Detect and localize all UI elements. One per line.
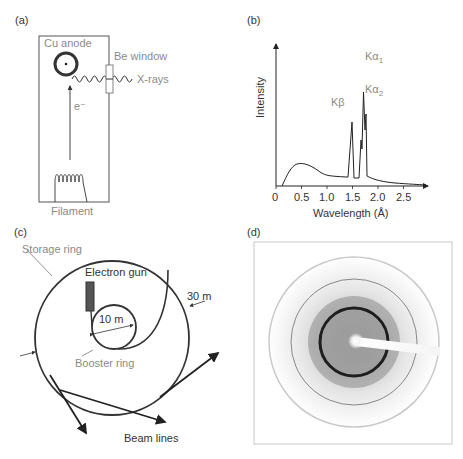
filament-label: Filament [51,205,93,217]
beam-line-1 [50,375,86,433]
panel-d-diffraction [254,242,452,444]
electron-gun-icon [86,282,94,311]
cu-anode-label: Cu anode [44,37,92,49]
xrays-label: X-rays [137,73,169,85]
x-tick-0.5: 0.5 [294,191,309,203]
panel-label-d: (d) [247,226,260,238]
xray-wave-icon [72,76,132,82]
booster-diameter-arrow [93,325,133,334]
kalpha1-label: Kα1 [365,50,383,65]
tube-housing [39,36,109,202]
x-tick-1.0: 1.0 [319,191,334,203]
storage-ring-label: Storage ring [22,243,82,255]
booster-diameter-label: 10 m [99,313,123,325]
beam-line-3 [160,353,218,397]
x-tick-1.5: 1.5 [345,191,360,203]
direct-beam-spot [348,333,364,349]
storage-radius-label: 30 m [187,290,211,302]
electron-label: e⁻ [74,100,86,113]
spectrum-curve [282,92,426,186]
panel-label-b: (b) [247,14,260,26]
panel-b-spectrum [276,44,428,189]
x-tick-0: 0 [272,191,278,203]
beam-lines-label: Beam lines [124,432,178,444]
figure-canvas [0,0,463,459]
electron-gun-label: Electron gun [85,266,147,278]
injection-pointer-arrow [20,352,35,356]
kbeta-label: Kβ [331,96,345,108]
filament-coil-icon [55,175,87,203]
booster-ring-label: Booster ring [75,357,134,369]
x-tick-2.0: 2.0 [370,191,385,203]
x-tick-2.5: 2.5 [396,191,411,203]
x-axis-label: Wavelength (Å) [313,207,388,219]
y-axis-label: Intensity [254,77,266,118]
booster-ring [92,305,136,349]
transfer-line [118,270,168,349]
panel-label-a: (a) [15,14,28,26]
kalpha2-label: Kα2 [365,83,383,98]
be-window-label: Be window [114,50,167,62]
panel-label-c: (c) [14,226,27,238]
